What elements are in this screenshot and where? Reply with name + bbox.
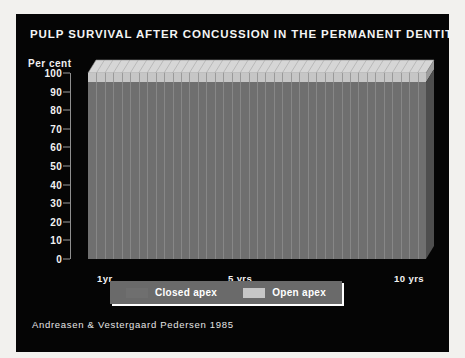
- bar-separator: [232, 73, 233, 82]
- legend-label-closed-apex: Closed apex: [155, 287, 217, 298]
- y-tick-mark-40: [63, 184, 70, 185]
- bar-separator: [249, 73, 250, 82]
- legend-swatch-closed-apex: [126, 288, 148, 298]
- bar-separator: [291, 82, 292, 259]
- bar-separator: [181, 73, 182, 82]
- y-tick-mark-20: [63, 221, 70, 222]
- bar-separator: [265, 73, 266, 82]
- bar-separator: [198, 82, 199, 259]
- bar-separator: [367, 73, 368, 82]
- bar-separator: [164, 82, 165, 259]
- legend-item-open-apex: Open apex: [243, 287, 326, 298]
- y-tick-mark-80: [63, 110, 70, 111]
- bar-separator: [96, 73, 97, 82]
- bar-separator: [122, 82, 123, 259]
- bar-separator: [392, 82, 393, 259]
- bar-separator: [316, 73, 317, 82]
- bar-separator: [164, 73, 165, 82]
- bar-separator: [409, 82, 410, 259]
- bar-separator: [358, 82, 359, 259]
- bar-separator: [384, 82, 385, 259]
- bar-separator: [215, 73, 216, 82]
- y-tick-mark-100: [63, 73, 70, 74]
- source-attribution: Andreasen & Vestergaard Pedersen 1985: [32, 319, 234, 330]
- bar-separator: [308, 73, 309, 82]
- bar-separator: [223, 73, 224, 82]
- bar-separator: [384, 73, 385, 82]
- y-tick-mark-30: [63, 203, 70, 204]
- bar-separator: [375, 82, 376, 259]
- y-tick-mark-70: [63, 128, 70, 129]
- bar-separator: [333, 82, 334, 259]
- bar-separator: [333, 73, 334, 82]
- bar-separator: [173, 73, 174, 82]
- bar-separator: [392, 73, 393, 82]
- y-tick-mark-50: [63, 166, 70, 167]
- legend-swatch-open-apex: [243, 288, 265, 298]
- bar-separator: [96, 82, 97, 259]
- bar-separator: [249, 82, 250, 259]
- bar-separator: [282, 82, 283, 259]
- y-tick-mark-60: [63, 147, 70, 148]
- bar-separator: [325, 82, 326, 259]
- bar-separator: [240, 73, 241, 82]
- bar-separator: [350, 73, 351, 82]
- bar-separator: [299, 73, 300, 82]
- bar-separator: [122, 73, 123, 82]
- bar-separator: [156, 82, 157, 259]
- open-apex-bar-separators: [88, 73, 426, 82]
- bar-separator: [223, 82, 224, 259]
- bar-separator: [291, 73, 292, 82]
- bar-separator: [418, 82, 419, 259]
- open-apex-front-face: [88, 73, 426, 82]
- bar-separator: [105, 82, 106, 259]
- bar-separator: [105, 73, 106, 82]
- bar-separator: [401, 73, 402, 82]
- bar-separator: [139, 73, 140, 82]
- bar-separator: [130, 73, 131, 82]
- bar-separator: [113, 73, 114, 82]
- chart-legend: Closed apex Open apex: [110, 281, 342, 304]
- closed-apex-front-face: [88, 82, 426, 259]
- bar-separator: [147, 82, 148, 259]
- y-tick-mark-10: [63, 240, 70, 241]
- bar-separator: [325, 73, 326, 82]
- slide-frame: PULP SURVIVAL AFTER CONCUSSION IN THE PE…: [0, 0, 465, 358]
- bar-separator: [418, 73, 419, 82]
- bar-separator: [257, 73, 258, 82]
- bar-separator: [232, 82, 233, 259]
- bar-separator: [130, 82, 131, 259]
- plot-area: 0102030405060708090100 1yr5 yrs1: [54, 60, 434, 275]
- closed-apex-side-face: [426, 69, 434, 259]
- bar-separator: [316, 82, 317, 259]
- bar-separator: [350, 82, 351, 259]
- bar-separator: [401, 82, 402, 259]
- slide-body: PULP SURVIVAL AFTER CONCUSSION IN THE PE…: [16, 14, 449, 352]
- y-tick-mark-0: [63, 259, 70, 260]
- bar-separator: [139, 82, 140, 259]
- bar-separator: [342, 73, 343, 82]
- legend-item-closed-apex: Closed apex: [126, 287, 217, 298]
- bar-separator: [215, 82, 216, 259]
- bar-separator: [265, 82, 266, 259]
- bar-separator: [173, 82, 174, 259]
- bar-separator: [257, 82, 258, 259]
- bar-separator: [274, 82, 275, 259]
- bar-separator: [189, 73, 190, 82]
- bar-separator: [375, 73, 376, 82]
- page-title: PULP SURVIVAL AFTER CONCUSSION IN THE PE…: [30, 28, 449, 40]
- bar-separator: [274, 73, 275, 82]
- bar-separator: [358, 73, 359, 82]
- stacked-area-3d: [71, 60, 417, 273]
- bar-separator: [409, 73, 410, 82]
- bar-separator: [198, 73, 199, 82]
- bar-separator: [299, 82, 300, 259]
- bar-separator: [240, 82, 241, 259]
- bar-separator: [156, 73, 157, 82]
- bar-separator: [113, 82, 114, 259]
- bar-separator: [367, 82, 368, 259]
- y-tick-mark-90: [63, 91, 70, 92]
- legend-label-open-apex: Open apex: [272, 287, 326, 298]
- closed-apex-bar-separators: [88, 82, 426, 259]
- bar-separator: [308, 82, 309, 259]
